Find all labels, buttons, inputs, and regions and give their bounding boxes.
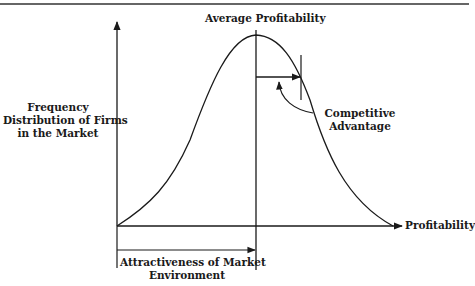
y-axis-label-line-3: in the Market xyxy=(3,127,113,140)
x-axis-label: Profitability xyxy=(405,219,475,232)
competitive-advantage-line-2: Advantage xyxy=(320,120,400,133)
annotation-pointer-arrow xyxy=(279,82,313,113)
average-profitability-label: Average Profitability xyxy=(205,12,309,25)
competitive-advantage-line-1: Competitive xyxy=(320,107,400,120)
y-axis-label: Frequency Distribution of Firms in the M… xyxy=(3,101,113,140)
competitive-advantage-label: Competitive Advantage xyxy=(320,107,400,133)
attractiveness-line-2: Environment xyxy=(120,269,254,282)
attractiveness-line-1: Attractiveness of Market xyxy=(120,256,254,269)
y-axis-label-line-1: Frequency xyxy=(3,101,113,114)
attractiveness-label: Attractiveness of Market Environment xyxy=(120,256,254,282)
y-axis-label-line-2: Distribution of Firms xyxy=(3,114,113,127)
